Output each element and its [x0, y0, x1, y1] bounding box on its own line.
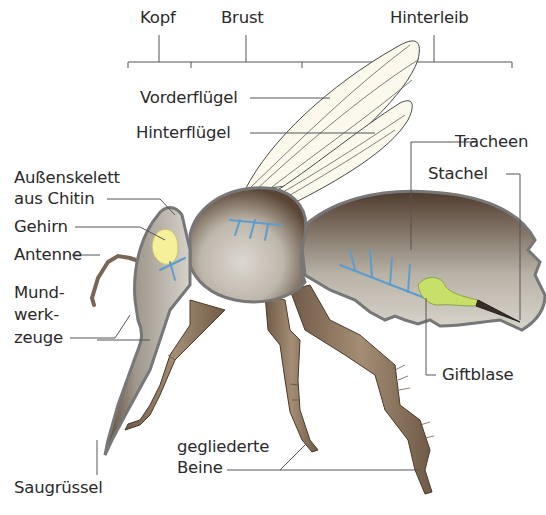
label-legs-2: Beine: [177, 458, 223, 478]
label-legs-1: gegliederte: [177, 437, 269, 457]
brain: [152, 229, 178, 264]
abdomen: [300, 191, 545, 330]
label-brain: Gehirn: [14, 217, 68, 237]
thorax: [190, 188, 306, 302]
segment-label-head: Kopf: [140, 8, 176, 28]
label-antenna: Antenne: [14, 245, 82, 265]
label-sting: Stachel: [428, 164, 488, 184]
label-venom-sac: Giftblase: [442, 365, 513, 385]
label-proboscis: Saugrüssel: [14, 478, 103, 498]
segment-label-thorax: Brust: [221, 8, 264, 28]
label-mouthparts-2: werk-: [14, 305, 59, 325]
label-exoskeleton-1: Außenskelett: [14, 168, 120, 188]
label-hindwing: Hinterflügel: [136, 123, 231, 143]
label-trachea: Tracheen: [455, 132, 528, 152]
wings: [245, 41, 419, 205]
segment-label-abdomen: Hinterleib: [390, 8, 469, 28]
label-mouthparts-3: zeuge: [14, 328, 63, 348]
bee-anatomy-diagram: Kopf Brust Hinterleib Vorderflügel Hinte…: [0, 0, 546, 515]
label-exoskeleton-2: aus Chitin: [14, 189, 94, 209]
label-forewing: Vorderflügel: [140, 88, 238, 108]
label-mouthparts-1: Mund-: [14, 283, 65, 303]
segment-bracket: [128, 35, 512, 68]
